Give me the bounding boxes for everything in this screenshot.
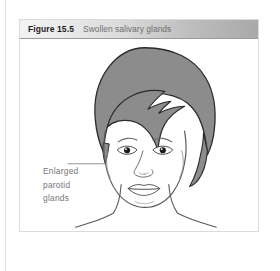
hair (95, 48, 215, 187)
left-eye-highlight (125, 148, 127, 150)
eyebrows (118, 138, 172, 142)
annotation-line-3: glands (43, 192, 105, 206)
eyes (117, 146, 173, 154)
nose (134, 151, 153, 177)
annotation-line-1: Enlarged (43, 165, 105, 179)
figure-number: Figure 15.5 (28, 24, 74, 34)
nose-bridge (134, 151, 143, 176)
figure-title: Swollen salivary glands (83, 24, 171, 34)
nose-right-wing (150, 170, 153, 176)
right-eye-highlight (161, 148, 163, 150)
figure-caption-bar: Figure 15.5 Swollen salivary glands (20, 20, 258, 39)
neck-right-line (169, 185, 217, 228)
hair-side-right (190, 133, 208, 187)
mouth (128, 185, 160, 196)
figure-container: Figure 15.5 Swollen salivary glands (19, 19, 259, 232)
swollen-parotid-right (180, 151, 184, 178)
chin-crease (135, 201, 154, 203)
swollen-parotid-left (107, 151, 111, 178)
left-eyebrow (118, 138, 137, 142)
nose-base (137, 176, 150, 177)
page-margin-rule (5, 0, 6, 271)
lips (128, 185, 160, 196)
annotation-line-2: parotid (43, 179, 105, 193)
left-eye-pupil (124, 147, 130, 153)
right-eye-pupil (160, 147, 166, 153)
annotation-label: Enlarged parotid glands (43, 165, 105, 206)
